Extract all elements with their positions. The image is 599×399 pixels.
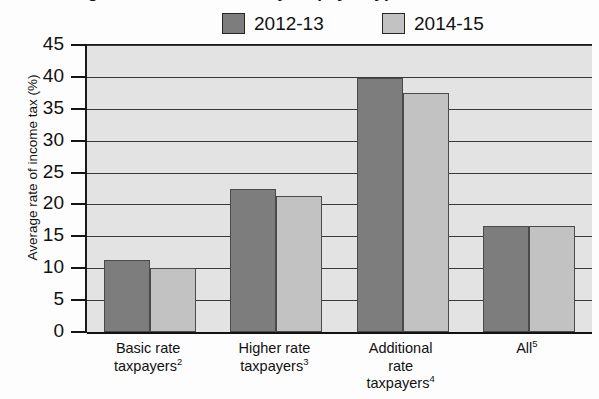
x-axis-label-line: All5 [452, 340, 599, 358]
plot-area [85, 44, 592, 332]
y-tick-35 [71, 108, 87, 110]
y-tick-label-25: 25 [4, 162, 64, 181]
y-tick-label-5: 5 [4, 289, 64, 308]
gridline-20 [87, 204, 592, 205]
y-tick-15 [71, 235, 87, 237]
y-tick-0 [71, 331, 87, 333]
bar-basic-rate-taxpayers-2012-13[interactable] [104, 260, 150, 332]
bar-higher-rate-taxpayers-2012-13[interactable] [230, 189, 276, 333]
x-axis-label-line: taxpayers4 [326, 375, 476, 393]
y-tick-label-15: 15 [4, 225, 64, 244]
footnote-marker: 2 [177, 356, 182, 367]
footnote-marker: 5 [532, 338, 537, 349]
gridline-25 [87, 173, 592, 174]
y-tick-20 [71, 203, 87, 205]
bar-chart: Average rate of income tax (%) Basic rat… [0, 0, 599, 399]
y-tick-45 [71, 44, 87, 46]
bar-additional-rate-taxpayers-2012-13[interactable] [357, 78, 403, 332]
y-tick-25 [71, 172, 87, 174]
x-axis-label-all: All5 [452, 340, 599, 358]
footnote-marker: 3 [303, 356, 308, 367]
y-tick-10 [71, 267, 87, 269]
y-tick-label-20: 20 [4, 193, 64, 212]
y-tick-label-10: 10 [4, 257, 64, 276]
plot-inner [87, 45, 592, 332]
gridline-30 [87, 141, 592, 142]
y-tick-40 [71, 76, 87, 78]
y-tick-label-0: 0 [4, 321, 64, 340]
gridline-0 [87, 332, 592, 334]
y-tick-label-35: 35 [4, 98, 64, 117]
y-tick-5 [71, 299, 87, 301]
gridline-35 [87, 109, 592, 110]
gridline-40 [87, 77, 592, 78]
y-tick-label-40: 40 [4, 66, 64, 85]
y-tick-label-30: 30 [4, 130, 64, 149]
x-axis-label-line: rate [326, 358, 476, 376]
bar-higher-rate-taxpayers-2014-15[interactable] [276, 196, 322, 332]
y-tick-label-45: 45 [4, 34, 64, 53]
bar-all-2012-13[interactable] [483, 226, 529, 332]
footnote-marker: 4 [429, 373, 434, 384]
bar-all-2014-15[interactable] [529, 226, 575, 332]
gridline-45 [87, 45, 592, 46]
bar-basic-rate-taxpayers-2014-15[interactable] [150, 268, 196, 332]
y-tick-30 [71, 140, 87, 142]
bar-additional-rate-taxpayers-2014-15[interactable] [403, 93, 449, 332]
